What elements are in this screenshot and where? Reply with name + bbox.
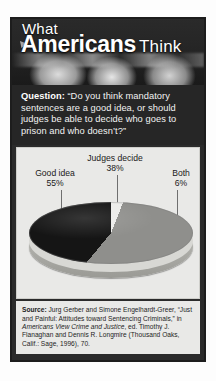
infographic-box: What AmericansThink Question: “Do you th…	[10, 17, 206, 362]
header-banner: What AmericansThink	[12, 19, 204, 85]
slice-label-judges-decide: Judges decide 38%	[77, 153, 153, 173]
pie-top-surface	[29, 202, 193, 264]
infographic-page: What AmericansThink Question: “Do you th…	[0, 0, 216, 381]
slice-label-good-idea-name: Good idea	[35, 168, 75, 178]
page-title: What AmericansThink	[21, 21, 182, 56]
slice-label-good-idea-value: 55%	[23, 178, 87, 188]
slice-label-judges-decide-value: 38%	[77, 163, 153, 173]
title-think: Think	[139, 37, 182, 56]
source-title-italic: Americans View Crime and Justice	[22, 323, 124, 330]
slice-label-both-name: Both	[172, 168, 190, 178]
pie-chart	[29, 200, 193, 292]
slice-label-both: Both 6%	[157, 168, 200, 188]
question-label: Question:	[21, 91, 65, 101]
slice-label-both-value: 6%	[157, 178, 200, 188]
title-americans: Americans	[21, 31, 136, 57]
source-note: Source: Jurg Gerber and Simone Engelhard…	[16, 301, 200, 353]
pie-chart-panel: Good idea 55% Judges decide 38% Both 6%	[16, 147, 200, 299]
slice-label-judges-decide-name: Judges decide	[87, 153, 142, 163]
source-label: Source:	[22, 306, 47, 313]
title-row: AmericansThink	[21, 33, 182, 56]
question-block: Question: “Do you think mandatory senten…	[12, 85, 204, 145]
source-text-part1: Jurg Gerber and Simone Engelhardt-Greer,…	[22, 306, 192, 321]
